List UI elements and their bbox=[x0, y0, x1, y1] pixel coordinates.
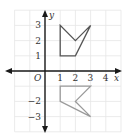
y-tick-label: 2 bbox=[35, 36, 41, 46]
x-axis-label: x bbox=[114, 73, 119, 83]
labels: y x O 1234321−2−3 bbox=[28, 10, 119, 122]
x-tick-label: 1 bbox=[57, 73, 63, 83]
y-tick-label: −3 bbox=[28, 112, 42, 122]
x-tick-label: 3 bbox=[88, 73, 94, 83]
y-axis-up-arrow-icon bbox=[42, 10, 48, 17]
y-axis-label: y bbox=[48, 10, 55, 20]
x-tick-label: 4 bbox=[103, 73, 109, 83]
origin-label: O bbox=[34, 73, 42, 83]
y-tick-label: −2 bbox=[28, 96, 41, 106]
y-tick-label: 3 bbox=[35, 20, 41, 30]
x-axis-left-arrow-icon bbox=[5, 68, 12, 74]
x-tick-label: 2 bbox=[72, 73, 78, 83]
coordinate-plane: y x O 1234321−2−3 bbox=[0, 0, 127, 138]
y-tick-label: 1 bbox=[35, 51, 41, 61]
